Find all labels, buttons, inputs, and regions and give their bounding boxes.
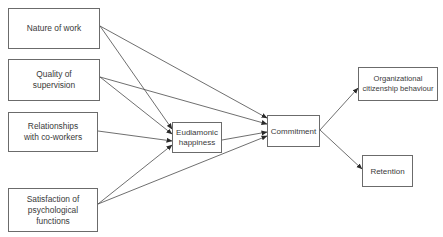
arrow-commitment-to-ocb [320, 88, 358, 130]
path-diagram: Nature of work Quality of supervision Re… [0, 0, 443, 237]
node-commitment: Commitment [267, 115, 320, 147]
node-nature-of-work: Nature of work [8, 8, 100, 49]
arrow-commitment-to-retention [320, 130, 362, 169]
arrow-quality-of-supervision-to-commitment [100, 77, 267, 124]
node-relationships-with-co-workers: Relationships with co-workers [8, 112, 98, 152]
arrow-nature-of-work-to-eudaimonic [100, 26, 172, 129]
node-retention: Retention [362, 155, 413, 187]
node-quality-of-supervision: Quality of supervision [8, 59, 100, 101]
arrow-quality-of-supervision-to-eudaimonic [100, 77, 172, 134]
node-organizational-citizenship-behaviour: Organizational citizenship behaviour [358, 67, 438, 101]
node-eudaimonic-happiness: Eudiamonic happiness [172, 122, 222, 153]
arrow-relationships-to-eudaimonic [98, 131, 172, 141]
node-satisfaction-of-psychological-functions: Satisfaction of psychological functions [8, 188, 98, 232]
arrow-nature-of-work-to-commitment [100, 26, 267, 118]
arrow-satisfaction-to-eudaimonic [98, 145, 172, 204]
